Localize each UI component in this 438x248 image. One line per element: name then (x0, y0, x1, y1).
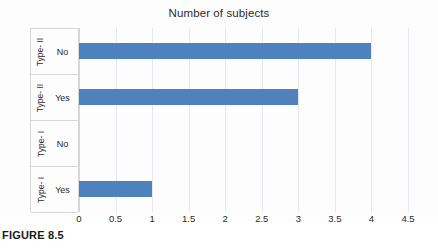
y-axis-label-grid: Type- II No Type- II Yes Type- I No Type… (30, 28, 79, 212)
y-axis-group-label: Type- I (31, 167, 50, 213)
y-axis-row: Type- II No (31, 29, 78, 75)
figure-container: Number of subjects Type- II No Type- II … (0, 0, 438, 248)
y-axis-row: Type- I No (31, 121, 78, 167)
x-axis-tick-label: 1 (149, 213, 154, 224)
y-axis-group-label: Type- II (31, 75, 50, 121)
chart-title: Number of subjects (0, 7, 438, 19)
bar-row (79, 28, 408, 74)
bars-layer (79, 28, 408, 212)
bar-type-ii-no (79, 43, 371, 59)
x-axis-tick-label: 2.5 (255, 213, 268, 224)
x-axis-tick-label: 0.5 (109, 213, 122, 224)
y-axis-group-label-text: Type- I (36, 131, 46, 157)
y-axis-group-label-text: Type- II (36, 37, 46, 65)
x-axis-tick-label: 4.5 (401, 213, 414, 224)
x-axis-tick-label: 3.5 (328, 213, 341, 224)
plot-area (79, 28, 408, 212)
x-axis-tick-label: 0 (76, 213, 81, 224)
y-axis-group-label-text: Type- I (36, 177, 46, 203)
gridline (408, 28, 409, 212)
x-axis-tick-label: 2 (223, 213, 228, 224)
bar-type-ii-yes (79, 89, 298, 105)
y-axis-row: Type- I Yes (31, 167, 78, 213)
chart-canvas: Number of subjects Type- II No Type- II … (0, 0, 438, 222)
y-axis-group-label: Type- II (31, 29, 50, 75)
x-axis-tick-label: 1.5 (182, 213, 195, 224)
x-axis-tick-labels: 00.511.522.533.544.5 (79, 213, 408, 227)
bar-type-i-yes (79, 181, 152, 197)
y-axis-category-label: Yes (50, 93, 78, 103)
y-axis-category-label: Yes (50, 185, 78, 195)
bar-row (79, 166, 408, 212)
figure-caption: FIGURE 8.5 (2, 229, 64, 241)
x-axis-tick-label: 3 (296, 213, 301, 224)
y-axis-group-label-text: Type- II (36, 83, 46, 111)
y-axis-row: Type- II Yes (31, 75, 78, 121)
y-axis-category-label: No (50, 139, 78, 149)
x-axis-tick-label: 4 (369, 213, 374, 224)
bar-row (79, 74, 408, 120)
y-axis-category-label: No (50, 47, 78, 57)
y-axis-group-label: Type- I (31, 121, 50, 167)
bar-row (79, 120, 408, 166)
